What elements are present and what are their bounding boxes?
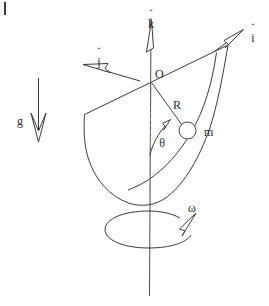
- physics-diagram-figure: ˇ k ˇ i ˇ j O R θ m g ω: [0, 0, 269, 306]
- theta-label: θ: [159, 136, 165, 150]
- k-vector-label: k: [148, 17, 154, 31]
- meridian-curve: [128, 53, 217, 191]
- mass-label: m: [204, 125, 214, 139]
- diagram-canvas: ˇ k ˇ i ˇ j O R θ m g ω: [0, 0, 269, 306]
- omega-arrowhead: [180, 213, 197, 236]
- mass-bead-circle: [179, 122, 196, 139]
- vertical-rotation-axis: [150, 18, 152, 296]
- j-vector-label: j: [96, 55, 100, 69]
- origin-label: O: [155, 67, 164, 81]
- gravity-label: g: [17, 114, 23, 128]
- radius-label: R: [173, 98, 181, 112]
- theta-arc-arrowhead: [163, 120, 171, 131]
- i-vector-label: i: [251, 31, 255, 45]
- rotation-ellipse: [105, 211, 191, 248]
- omega-label: ω: [188, 201, 196, 215]
